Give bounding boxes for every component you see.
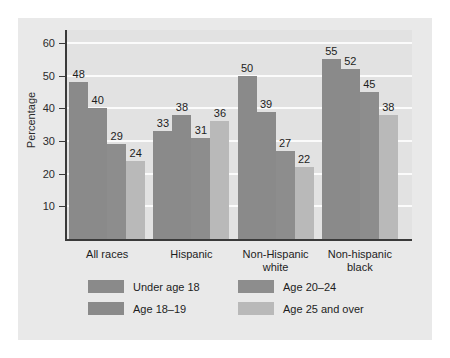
bar-value-label: 38 xyxy=(374,102,402,113)
legend-swatch xyxy=(88,280,124,293)
bar-value-label: 48 xyxy=(65,69,93,80)
bar-value-label: 40 xyxy=(84,95,112,106)
bar xyxy=(295,167,314,239)
category-label-line: Non-hispanic xyxy=(305,248,415,261)
x-axis-line xyxy=(65,239,412,241)
y-tick-mark xyxy=(59,141,66,142)
bar-value-label: 24 xyxy=(122,148,150,159)
bar-value-label: 52 xyxy=(336,56,364,67)
chart-figure: Percentage 102030405060 4840292433383136… xyxy=(18,18,432,340)
bar-value-label: 36 xyxy=(206,108,234,119)
legend-swatch xyxy=(88,302,124,315)
legend-item[interactable]: Under age 18 xyxy=(88,280,238,293)
y-tick-label: 40 xyxy=(18,102,55,114)
y-tick-mark xyxy=(59,108,66,109)
bar-value-label: 29 xyxy=(103,131,131,142)
bar xyxy=(88,108,107,239)
y-tick-mark xyxy=(59,206,66,207)
y-axis-line xyxy=(65,30,67,241)
bar xyxy=(257,112,276,239)
y-tick-label: 20 xyxy=(18,168,55,180)
chart-legend: Under age 18Age 20–24Age 18–19Age 25 and… xyxy=(88,280,388,324)
gridline xyxy=(67,42,412,44)
legend-label: Under age 18 xyxy=(133,281,200,293)
bar xyxy=(360,92,379,239)
y-tick-label: 10 xyxy=(18,200,55,212)
bar xyxy=(191,138,210,239)
legend-label: Age 25 and over xyxy=(283,303,364,315)
bar-value-label: 39 xyxy=(252,99,280,110)
legend-swatch xyxy=(238,302,274,315)
bar xyxy=(153,131,172,239)
bar-value-label: 45 xyxy=(355,79,383,90)
category-label: Non-hispanicblack xyxy=(305,248,415,274)
legend-label: Age 18–19 xyxy=(133,303,186,315)
y-tick-mark xyxy=(59,43,66,44)
legend-label: Age 20–24 xyxy=(283,281,336,293)
bar xyxy=(210,121,229,239)
legend-swatch xyxy=(238,280,274,293)
y-tick-label: 50 xyxy=(18,70,55,82)
bar-value-label: 38 xyxy=(168,102,196,113)
bar xyxy=(322,59,341,239)
legend-row: Age 18–19Age 25 and over xyxy=(88,302,388,315)
y-tick-label: 30 xyxy=(18,135,55,147)
bar xyxy=(126,161,145,239)
legend-item[interactable]: Age 18–19 xyxy=(88,302,238,315)
bar-value-label: 22 xyxy=(290,154,318,165)
y-tick-mark xyxy=(59,174,66,175)
bar xyxy=(379,115,398,239)
legend-item[interactable]: Age 20–24 xyxy=(238,280,388,293)
bar-value-label: 50 xyxy=(233,63,261,74)
bar-value-label: 27 xyxy=(271,138,299,149)
legend-row: Under age 18Age 20–24 xyxy=(88,280,388,293)
legend-item[interactable]: Age 25 and over xyxy=(238,302,388,315)
category-label-line: black xyxy=(305,261,415,274)
bar xyxy=(341,69,360,239)
y-tick-label: 60 xyxy=(18,37,55,49)
